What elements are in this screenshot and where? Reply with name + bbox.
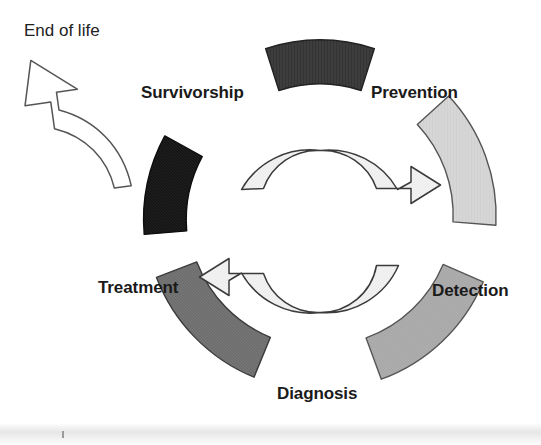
cycle-diagram-svg xyxy=(0,0,541,445)
cancer-care-cycle-figure: End of life Survivorship Prevention Dete… xyxy=(0,0,541,445)
end-of-life-label: End of life xyxy=(24,21,100,41)
segment-prevention[interactable] xyxy=(266,40,375,91)
stage-label-detection: Detection xyxy=(432,281,509,301)
scan-edge-band xyxy=(0,423,541,445)
segment-survivorship[interactable] xyxy=(144,136,203,235)
inner-arrow-top xyxy=(242,150,441,204)
end-of-life-arrow xyxy=(19,49,131,199)
stage-label-prevention: Prevention xyxy=(371,83,458,103)
stage-label-diagnosis: Diagnosis xyxy=(277,384,357,404)
inner-arrow-bottom xyxy=(200,259,399,314)
scan-speck xyxy=(62,431,64,438)
stage-label-treatment: Treatment xyxy=(98,278,178,298)
stage-label-survivorship: Survivorship xyxy=(141,83,244,103)
segment-detection[interactable] xyxy=(417,96,496,225)
